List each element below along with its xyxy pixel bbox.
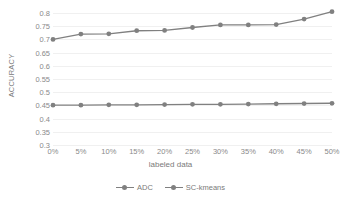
x-axis-tick: 5% bbox=[75, 147, 86, 156]
data-point-marker bbox=[218, 102, 223, 107]
y-axis-title: ACCURACY bbox=[4, 0, 20, 150]
y-axis-tick-labels: 0.80.750.70.650.60.550.50.450.40.350.3 bbox=[20, 0, 50, 152]
y-axis-tick: 0.8 bbox=[40, 9, 50, 18]
y-axis-tick: 0.4 bbox=[40, 114, 50, 123]
x-axis-title: labeled data bbox=[0, 160, 341, 169]
legend-marker-icon bbox=[116, 184, 134, 191]
data-point-marker bbox=[330, 101, 335, 106]
y-axis-tick: 0.7 bbox=[40, 35, 50, 44]
legend-marker-icon bbox=[165, 184, 183, 191]
y-axis-tick: 0.6 bbox=[40, 61, 50, 70]
data-point-marker bbox=[246, 22, 251, 27]
data-point-marker bbox=[274, 22, 279, 27]
legend-label: SC-kmeans bbox=[186, 183, 225, 192]
data-point-marker bbox=[79, 32, 84, 37]
data-point-marker bbox=[134, 102, 139, 107]
data-point-marker bbox=[218, 22, 223, 27]
y-axis-tick: 0.65 bbox=[35, 48, 50, 57]
data-point-marker bbox=[274, 101, 279, 106]
y-axis-tick: 0.5 bbox=[40, 88, 50, 97]
data-point-marker bbox=[162, 102, 167, 107]
x-axis-tick: 30% bbox=[213, 147, 228, 156]
x-axis-tick: 15% bbox=[129, 147, 144, 156]
legend-item[interactable]: SC-kmeans bbox=[165, 183, 225, 192]
gridline bbox=[53, 145, 332, 146]
data-point-marker bbox=[162, 28, 167, 33]
data-point-marker bbox=[330, 9, 335, 14]
x-axis-tick-labels: 0%5%10%15%20%25%30%35%40%45%50% bbox=[53, 147, 332, 161]
plot-area bbox=[53, 13, 332, 145]
x-axis-tick: 10% bbox=[101, 147, 116, 156]
x-axis-tick: 45% bbox=[297, 147, 312, 156]
data-point-marker bbox=[106, 102, 111, 107]
x-axis-tick: 25% bbox=[185, 147, 200, 156]
data-point-marker bbox=[51, 37, 56, 42]
chart-container: ACCURACY 0.80.750.70.650.60.550.50.450.4… bbox=[0, 0, 341, 198]
data-point-marker bbox=[246, 102, 251, 107]
data-point-marker bbox=[134, 28, 139, 33]
x-axis-tick: 50% bbox=[324, 147, 339, 156]
data-point-marker bbox=[51, 103, 56, 108]
legend-item[interactable]: ADC bbox=[116, 183, 153, 192]
x-axis-tick: 0% bbox=[48, 147, 59, 156]
data-point-marker bbox=[302, 101, 307, 106]
data-point-marker bbox=[190, 102, 195, 107]
data-point-marker bbox=[190, 25, 195, 30]
x-axis-tick: 20% bbox=[157, 147, 172, 156]
x-axis-tick: 35% bbox=[241, 147, 256, 156]
y-axis-title-label: ACCURACY bbox=[8, 53, 17, 97]
y-axis-tick: 0.45 bbox=[35, 101, 50, 110]
y-axis-tick: 0.55 bbox=[35, 75, 50, 84]
y-axis-tick: 0.35 bbox=[35, 127, 50, 136]
series-plot bbox=[53, 13, 332, 145]
x-axis-tick: 40% bbox=[269, 147, 284, 156]
legend-label: ADC bbox=[137, 183, 153, 192]
chart-legend: ADCSC-kmeans bbox=[0, 183, 341, 192]
data-point-marker bbox=[106, 31, 111, 36]
y-axis-tick: 0.75 bbox=[35, 22, 50, 31]
data-point-marker bbox=[302, 17, 307, 22]
data-point-marker bbox=[79, 103, 84, 108]
